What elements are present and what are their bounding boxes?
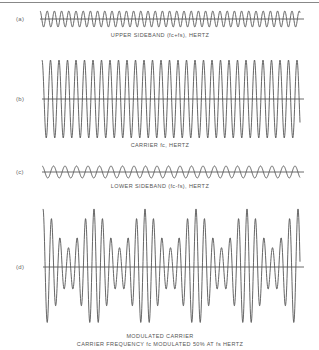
- carrier-waveform: [42, 60, 304, 138]
- modulated-carrier-waveform: [43, 209, 304, 323]
- upper-sideband-waveform: [40, 11, 304, 27]
- waveform-canvas: [0, 0, 319, 350]
- panel-label-a: (a): [16, 16, 24, 22]
- lower-sideband-waveform: [42, 166, 304, 178]
- caption-upper-sideband: UPPER SIDEBAND (fc+fs), HERTZ: [90, 32, 230, 38]
- panel-label-d: (d): [16, 264, 24, 270]
- caption-modulated-carrier-detail: CARRIER FREQUENCY fc MODULATED 50% AT fs…: [60, 341, 260, 347]
- panel-label-c: (c): [16, 169, 24, 175]
- panel-label-b: (b): [16, 96, 24, 102]
- caption-carrier: CARRIER fc, HERTZ: [100, 142, 220, 148]
- caption-modulated-carrier: MODULATED CARRIER: [80, 333, 240, 339]
- wave-path-d: [43, 209, 300, 323]
- caption-lower-sideband: LOWER SIDEBAND (fc-fs), HERTZ: [90, 183, 230, 189]
